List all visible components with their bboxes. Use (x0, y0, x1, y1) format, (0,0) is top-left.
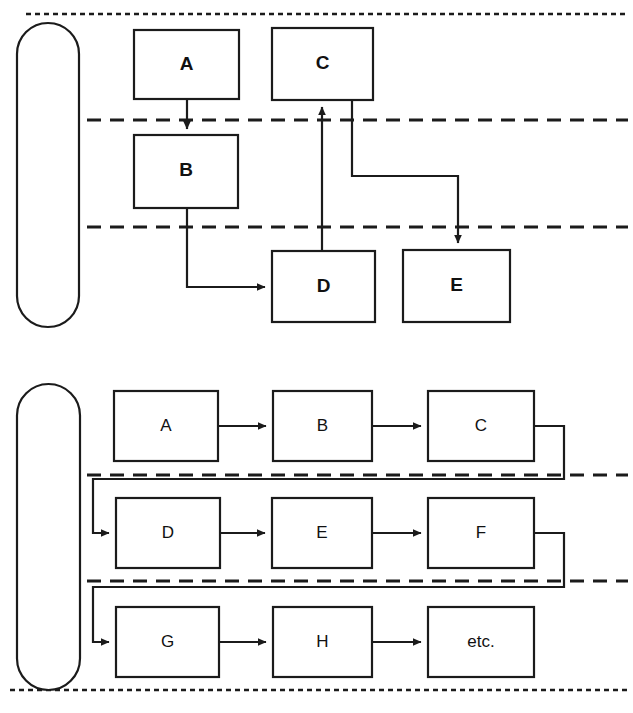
bottom-lane-capsule (17, 384, 80, 690)
top-diagram: A C B D E (17, 23, 628, 327)
top-lane-capsule (17, 23, 79, 327)
top-node-d[interactable]: D (272, 251, 375, 322)
bottom-node-etc[interactable]: etc. (428, 607, 534, 677)
bottom-node-d-label: D (162, 523, 174, 542)
bottom-node-h-label: H (316, 632, 328, 651)
bottom-node-a[interactable]: A (114, 391, 218, 461)
bottom-node-f-label: F (476, 523, 486, 542)
bottom-node-a-label: A (160, 416, 172, 435)
bottom-node-e[interactable]: E (272, 498, 372, 568)
top-node-e[interactable]: E (403, 250, 510, 322)
top-node-b-label: B (179, 159, 193, 180)
bottom-node-etc-label: etc. (467, 632, 494, 651)
diagram-svg: A C B D E (0, 0, 633, 713)
diagram-canvas: A C B D E (0, 0, 633, 713)
bottom-node-c-label: C (475, 416, 487, 435)
bottom-node-g-label: G (161, 632, 174, 651)
bottom-node-h[interactable]: H (273, 607, 372, 677)
bottom-node-c[interactable]: C (428, 391, 534, 461)
top-node-e-label: E (450, 274, 463, 295)
bottom-node-g[interactable]: G (116, 607, 219, 677)
top-node-a[interactable]: A (134, 30, 239, 99)
top-node-d-label: D (317, 275, 331, 296)
bottom-diagram: A B C D E F (17, 384, 628, 690)
top-node-a-label: A (180, 53, 194, 74)
top-node-c[interactable]: C (272, 28, 373, 100)
top-node-b[interactable]: B (134, 135, 238, 208)
bottom-node-b[interactable]: B (273, 391, 372, 461)
bottom-node-d[interactable]: D (116, 498, 220, 568)
top-edge-b-to-d (187, 208, 265, 287)
bottom-node-e-label: E (316, 523, 327, 542)
top-node-c-label: C (316, 52, 330, 73)
bottom-node-f[interactable]: F (428, 498, 534, 568)
bottom-node-b-label: B (317, 416, 328, 435)
